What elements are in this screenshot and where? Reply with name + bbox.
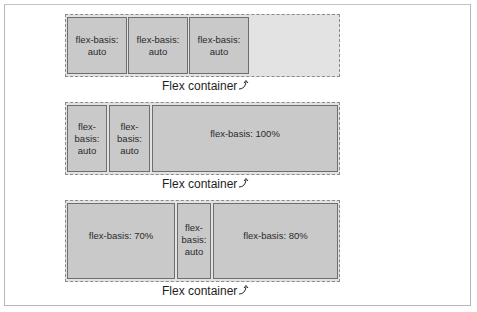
flex-item-2: flex-basis: auto — [177, 203, 211, 279]
caption-text: Flex container — [162, 177, 237, 191]
flex-container-1: flex-basis: auto flex-basis: auto flex-b… — [65, 14, 340, 77]
flex-item-1: flex-basis: auto — [67, 105, 107, 172]
curved-arrow-icon — [238, 284, 250, 296]
flex-item-3: flex-basis: 100% — [152, 105, 338, 172]
caption-text: Flex container — [162, 284, 237, 298]
caption-1: Flex container — [162, 79, 250, 93]
caption-3: Flex container — [162, 284, 250, 298]
flex-item-2: flex-basis: auto — [109, 105, 150, 172]
caption-text: Flex container — [162, 79, 237, 93]
flex-container-3: flex-basis: 70% flex-basis: auto flex-ba… — [65, 200, 340, 282]
flex-item-3: flex-basis: auto — [189, 17, 249, 74]
flex-item-1: flex-basis: auto — [67, 17, 127, 74]
flex-item-1: flex-basis: 70% — [67, 203, 175, 279]
curved-arrow-icon — [238, 177, 250, 189]
flex-item-3: flex-basis: 80% — [213, 203, 338, 279]
flex-container-2: flex-basis: auto flex-basis: auto flex-b… — [65, 102, 340, 175]
caption-2: Flex container — [162, 177, 250, 191]
curved-arrow-icon — [238, 79, 250, 91]
flex-item-2: flex-basis: auto — [128, 17, 188, 74]
